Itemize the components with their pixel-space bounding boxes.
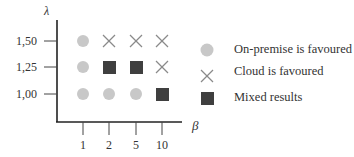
x-axis-label: β [192, 118, 198, 134]
mixed-marker [130, 61, 143, 74]
y-tick-label: 1,00 [16, 87, 37, 102]
legend-label-on-premise: On-premise is favoured [234, 42, 352, 57]
y-tick-label: 1,50 [16, 34, 37, 49]
on-premise-marker [77, 35, 89, 47]
y-tick-label: 1,25 [16, 60, 37, 75]
on-premise-marker [77, 88, 89, 100]
x-tick-label: 2 [106, 138, 112, 153]
cloud-marker [130, 35, 142, 47]
legend-circle-icon [201, 44, 214, 57]
legend-label-mixed: Mixed results [234, 90, 302, 105]
on-premise-marker [103, 88, 115, 100]
cloud-marker [156, 61, 168, 73]
chart: λ β 1,50 1,25 1,00 1 2 5 10 On-premise i… [0, 0, 354, 157]
x-tick-label: 5 [133, 138, 139, 153]
legend-square-icon [201, 92, 214, 105]
y-axis-label: λ [44, 4, 49, 19]
cloud-marker [156, 35, 168, 47]
mixed-marker [156, 88, 169, 101]
x-tick-label: 10 [156, 138, 168, 153]
mixed-marker [103, 61, 116, 74]
legend-x-icon [201, 70, 213, 82]
on-premise-marker [130, 88, 142, 100]
on-premise-marker [77, 61, 89, 73]
legend-label-cloud: Cloud is favoured [234, 64, 324, 79]
cloud-marker [103, 35, 115, 47]
x-tick-label: 1 [80, 138, 86, 153]
